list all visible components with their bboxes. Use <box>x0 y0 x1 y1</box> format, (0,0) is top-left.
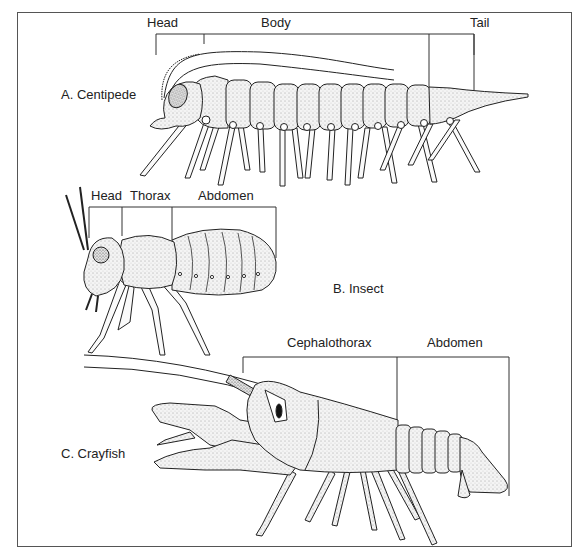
centipede-label-tail: Tail <box>470 16 490 30</box>
insect-label-head: Head <box>91 189 122 203</box>
centipede-label-head: Head <box>147 16 178 30</box>
insect-illustration <box>66 187 276 355</box>
crayfish-label-cephalothorax: Cephalothorax <box>287 336 372 350</box>
panel-b-title: B. Insect <box>333 282 384 296</box>
insect-label-thorax: Thorax <box>130 189 170 203</box>
panel-c-title: C. Crayfish <box>61 447 125 461</box>
crayfish-illustration <box>84 355 508 545</box>
illustration-canvas <box>0 0 588 558</box>
centipede-illustration <box>140 52 528 186</box>
crayfish-label-abdomen: Abdomen <box>427 336 483 350</box>
insect-label-abdomen: Abdomen <box>198 189 254 203</box>
panel-a-title: A. Centipede <box>61 88 136 102</box>
centipede-label-body: Body <box>261 16 291 30</box>
